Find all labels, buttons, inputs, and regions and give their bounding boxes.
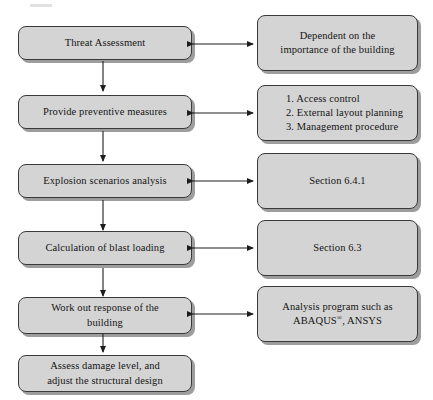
flowchart-canvas: Threat Assessment Provide preventive mea… xyxy=(0,0,433,400)
connector-layer xyxy=(0,0,433,400)
